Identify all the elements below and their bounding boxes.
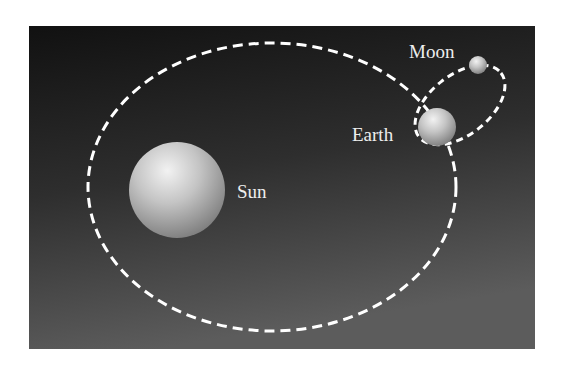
- earth-label: Earth: [352, 124, 394, 145]
- moon-sphere: [469, 56, 487, 74]
- earth-sphere: [418, 108, 456, 146]
- space-background: [29, 26, 535, 349]
- sun-sphere: [129, 142, 225, 238]
- moon-label: Moon: [409, 41, 455, 62]
- sun-earth-moon-diagram: Sun Earth Moon: [0, 0, 567, 369]
- sun-label: Sun: [237, 181, 267, 202]
